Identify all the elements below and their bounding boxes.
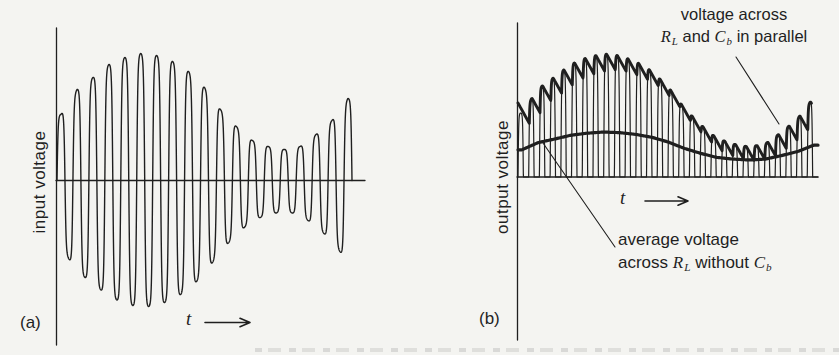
- panel-a-time-variable: t: [186, 308, 191, 330]
- panel-b-time-variable: t: [620, 187, 625, 209]
- annotation-parallel-line2: RL and Cb in parallel: [628, 25, 839, 52]
- annotation-average-line2: across RL without Cb: [618, 251, 772, 279]
- panel-a-y-axis-label: input voltage: [30, 120, 50, 244]
- waveform-canvas: [0, 0, 839, 355]
- panel-b-ripple-envelope-curve: [518, 54, 811, 160]
- panel-a-tag: (a): [20, 313, 41, 333]
- annotation-average-voltage: average voltage across RL without Cb: [618, 228, 772, 279]
- annotation-average-line1: average voltage: [618, 228, 772, 251]
- annotation-parallel-voltage: voltage across RL and Cb in parallel: [628, 3, 839, 52]
- annotation-parallel-line1: voltage across: [628, 3, 839, 25]
- panel-b-time-arrow-icon: [645, 197, 688, 205]
- am-detection-figure: input voltage output voltage (a) (b) t t…: [0, 0, 839, 355]
- panel-b-y-axis-label: output voltage: [493, 114, 513, 240]
- panel-a-time-arrow-icon: [205, 318, 250, 326]
- parallel-label-pointer-line: [736, 57, 779, 124]
- scan-artifact: [255, 348, 839, 352]
- panel-b-tag: (b): [479, 309, 500, 329]
